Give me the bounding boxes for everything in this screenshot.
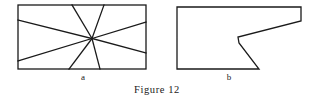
figure-caption: Figure 12 [97, 85, 217, 96]
panel-a-ray-to-right-lower [92, 39, 146, 54]
panel-a-ray-to-bottom-left [69, 39, 92, 70]
panel-a-ray-to-top-left [72, 5, 92, 39]
panel-a-ray-to-bottom-right [92, 39, 100, 70]
panel-a-ray-to-left-lower [18, 39, 92, 62]
panel-a-ray-to-right-upper [92, 22, 146, 39]
panel-a-ray-to-left-upper [18, 20, 92, 39]
panel-label-a: a [70, 73, 96, 82]
panel-a-ray-to-top-right [92, 5, 104, 39]
panel-a-drawing [18, 5, 146, 69]
panel-b-drawing [177, 7, 301, 69]
panel-b-notched-polygon [177, 7, 301, 69]
panel-label-b: b [216, 73, 242, 82]
figure-plate: a b Figure 12 [0, 0, 313, 102]
panel-a-rectangle [18, 5, 146, 69]
